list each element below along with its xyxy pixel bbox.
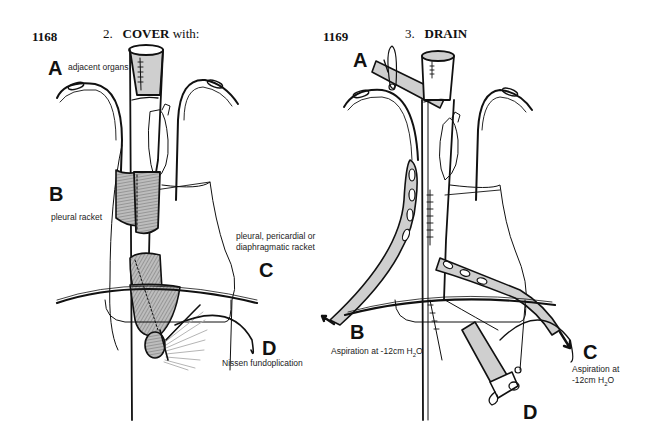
- caption-aspiration-c-line1: Aspiration at: [572, 364, 619, 375]
- label-c: C: [583, 342, 597, 362]
- caption-adjacent-organs: adjacent organs: [68, 62, 129, 73]
- figure-1169-drain: 1169 3. DRAIN: [320, 0, 647, 438]
- label-a: A: [48, 58, 62, 78]
- caption-nissen-fundoplication: Nissen fundoplication: [222, 358, 303, 369]
- caption-aspiration-b: Aspiration at -12cm H2O: [331, 346, 423, 361]
- label-d: D: [262, 338, 276, 358]
- caption-pleural-pericardial: pleural, pericardial or: [236, 231, 315, 242]
- caption-pleural-racket: pleural racket: [51, 212, 102, 223]
- label-a: A: [353, 50, 367, 70]
- figure-1168-cover: 1168 2. COVER with:: [0, 0, 320, 438]
- label-b: B: [49, 184, 63, 204]
- caption-aspiration-c-line2: -12cm H2O: [572, 375, 614, 390]
- label-d: D: [523, 402, 537, 422]
- caption-diaphragmatic-racket: diaphragmatic racket: [236, 242, 315, 253]
- label-c: C: [259, 260, 273, 280]
- label-b: B: [350, 322, 364, 342]
